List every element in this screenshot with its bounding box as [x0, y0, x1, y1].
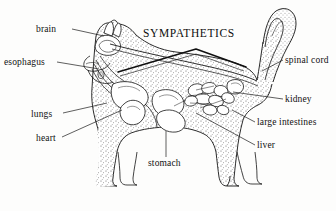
label-large-intestines: large intestines [257, 118, 316, 128]
diagram-page: SYMPATHETICS brain esophagus lungs heart… [0, 0, 336, 211]
label-stomach: stomach [148, 159, 181, 169]
label-kidney: kidney [285, 95, 312, 105]
label-esophagus: esophagus [4, 58, 45, 68]
label-brain: brain [36, 25, 56, 35]
label-heart: heart [36, 134, 56, 144]
label-spinal-cord: spinal cord [285, 56, 329, 66]
leader-esophagus [57, 62, 99, 69]
label-liver: liver [257, 141, 275, 151]
label-lungs: lungs [31, 110, 52, 120]
figure-title: SYMPATHETICS [143, 27, 235, 39]
